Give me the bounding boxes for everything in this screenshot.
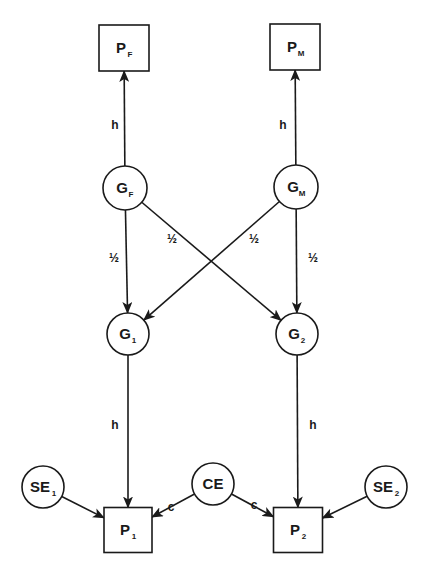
node-ce: CE xyxy=(192,463,234,505)
node-subscript: 1 xyxy=(52,489,57,498)
node-label: G xyxy=(116,179,128,196)
path-coefficient-label: ½ xyxy=(249,232,259,246)
node-subscript: F xyxy=(128,50,133,59)
path-coefficient-label: h xyxy=(309,418,316,432)
node-p1: P1 xyxy=(104,508,152,553)
node-subscript: 1 xyxy=(132,336,137,345)
node-label: G xyxy=(119,325,131,342)
node-g2: G2 xyxy=(276,313,318,355)
path-coefficient-label: h xyxy=(279,118,286,132)
node-p2: P2 xyxy=(274,508,323,553)
node-subscript: F xyxy=(129,190,134,199)
node-subscript: 2 xyxy=(301,336,306,345)
node-label: P xyxy=(120,521,130,538)
node-label: P xyxy=(116,39,126,56)
path-se2-to-p2 xyxy=(323,496,368,518)
node-pm: PM xyxy=(270,24,320,70)
path-coefficient-label: ½ xyxy=(109,251,119,265)
node-subscript: 2 xyxy=(302,532,307,541)
path-coefficient-label: h xyxy=(111,418,118,432)
node-label: P xyxy=(287,38,297,55)
path-coefficient-label: h xyxy=(111,118,118,132)
node-se1: SE1 xyxy=(22,466,64,508)
path-g2-to-p2 xyxy=(297,355,298,508)
node-label: P xyxy=(290,521,300,538)
path-coefficient-label: ½ xyxy=(167,232,177,246)
path-coefficient-label: ½ xyxy=(308,251,318,265)
node-subscript: M xyxy=(298,49,305,58)
node-subscript: M xyxy=(299,189,306,198)
node-subscript: 1 xyxy=(132,532,137,541)
path-diagram: PFPMGFGMG1G2SE1CESE2P1P2 hh½½½½hhcc xyxy=(0,0,433,583)
path-se1-to-p1 xyxy=(62,496,104,517)
path-gf-to-g1 xyxy=(125,210,127,313)
path-gm-to-pm xyxy=(295,70,296,165)
node-label: SE xyxy=(30,478,50,495)
path-coefficient-label: c xyxy=(168,500,175,514)
path-gm-to-g2 xyxy=(296,209,297,313)
path-gf-to-pf xyxy=(124,71,125,166)
node-se2: SE2 xyxy=(365,466,407,508)
node-subscript: 2 xyxy=(395,489,400,498)
node-gm: GM xyxy=(274,165,318,209)
node-gf: GF xyxy=(103,166,147,210)
node-pf: PF xyxy=(99,25,149,71)
node-label: SE xyxy=(373,478,393,495)
nodes-layer: PFPMGFGMG1G2SE1CESE2P1P2 xyxy=(22,24,407,553)
node-label: G xyxy=(288,325,300,342)
edges-layer xyxy=(62,70,367,518)
node-label: CE xyxy=(203,475,224,492)
node-label: G xyxy=(287,178,299,195)
node-g1: G1 xyxy=(107,313,149,355)
path-coefficient-label: c xyxy=(251,498,258,512)
